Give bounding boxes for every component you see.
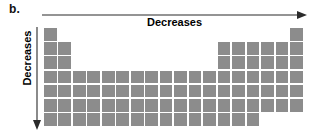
- periodic-table-cell: [218, 85, 231, 98]
- periodic-table-cell: [44, 56, 57, 69]
- periodic-table-cell-empty: [87, 56, 100, 69]
- periodic-table-cell-empty: [102, 42, 115, 55]
- periodic-table-row: [44, 71, 305, 85]
- periodic-table-cell: [247, 85, 260, 98]
- periodic-table-cell-empty: [174, 56, 187, 69]
- periodic-table-row: [44, 85, 305, 99]
- periodic-table-cell: [290, 42, 303, 55]
- periodic-table-cell: [174, 113, 187, 126]
- periodic-table-cell: [44, 99, 57, 112]
- periodic-table-cell: [87, 85, 100, 98]
- periodic-table-cell: [189, 99, 202, 112]
- periodic-table-cell: [160, 113, 173, 126]
- periodic-table-cell: [247, 56, 260, 69]
- periodic-table-cell-empty: [261, 28, 274, 41]
- periodic-table-cell: [73, 85, 86, 98]
- top-arrow-label: Decreases: [42, 16, 307, 28]
- periodic-table-cell: [290, 71, 303, 84]
- periodic-table-cell: [116, 113, 129, 126]
- periodic-table-cell: [116, 99, 129, 112]
- periodic-table-cell-empty: [189, 56, 202, 69]
- periodic-table-cell: [218, 56, 231, 69]
- periodic-table-cell-empty: [87, 28, 100, 41]
- periodic-table-cell: [145, 71, 158, 84]
- periodic-table-cell-empty: [87, 42, 100, 55]
- periodic-table-cell: [73, 99, 86, 112]
- left-arrow-label: Decreases: [21, 13, 33, 103]
- periodic-table-cell: [232, 42, 245, 55]
- periodic-table-cell: [290, 99, 303, 112]
- periodic-table-cell: [58, 56, 71, 69]
- periodic-table-cell: [203, 99, 216, 112]
- periodic-table-cell-empty: [174, 28, 187, 41]
- periodic-table-cell-empty: [203, 56, 216, 69]
- periodic-table-cell: [247, 71, 260, 84]
- periodic-table-cell: [247, 113, 260, 126]
- periodic-table-cell-empty: [102, 28, 115, 41]
- periodic-table-cell: [58, 71, 71, 84]
- periodic-table-row: [44, 56, 305, 70]
- periodic-table-cell: [247, 99, 260, 112]
- periodic-table-cell: [232, 99, 245, 112]
- periodic-table-cell-empty: [58, 28, 71, 41]
- periodic-table-cell: [203, 113, 216, 126]
- periodic-table-cell-empty: [102, 56, 115, 69]
- periodic-table-cell-empty: [145, 28, 158, 41]
- periodic-table-row: [44, 28, 305, 42]
- periodic-table-cell: [102, 71, 115, 84]
- periodic-table-cell: [290, 28, 303, 41]
- periodic-table-cell: [290, 85, 303, 98]
- periodic-table-cell: [102, 99, 115, 112]
- periodic-table-cell-empty: [261, 113, 274, 126]
- periodic-table-cell: [189, 113, 202, 126]
- periodic-table-cell: [102, 113, 115, 126]
- periodic-table-cell: [58, 42, 71, 55]
- periodic-table-cell: [218, 42, 231, 55]
- periodic-table-cell: [87, 113, 100, 126]
- periodic-table-cell-empty: [131, 42, 144, 55]
- periodic-table-grid: [44, 28, 305, 127]
- periodic-table-cell-empty: [174, 42, 187, 55]
- periodic-table-cell-empty: [131, 56, 144, 69]
- periodic-table-cell: [276, 99, 289, 112]
- periodic-table-cell: [189, 71, 202, 84]
- periodic-table-cell: [44, 71, 57, 84]
- periodic-table-cell-empty: [189, 42, 202, 55]
- periodic-table-cell: [131, 85, 144, 98]
- periodic-table-row: [44, 113, 305, 127]
- periodic-table-cell: [232, 56, 245, 69]
- periodic-table-cell: [116, 85, 129, 98]
- periodic-table-cell: [203, 85, 216, 98]
- periodic-table-cell: [145, 113, 158, 126]
- periodic-table-cell: [261, 56, 274, 69]
- periodic-table-cell: [203, 71, 216, 84]
- periodic-table-cell-empty: [160, 28, 173, 41]
- periodic-trend-figure: b. Decreases Decreases: [0, 0, 321, 135]
- periodic-table-cell-empty: [203, 42, 216, 55]
- periodic-table-cell: [131, 99, 144, 112]
- periodic-table-cell: [218, 113, 231, 126]
- periodic-table-cell-empty: [247, 28, 260, 41]
- periodic-table-cell: [261, 85, 274, 98]
- periodic-table-cell-empty: [189, 28, 202, 41]
- periodic-table-cell: [44, 113, 57, 126]
- periodic-table-cell: [73, 113, 86, 126]
- periodic-table-cell: [261, 71, 274, 84]
- periodic-table-cell-empty: [203, 28, 216, 41]
- periodic-table-cell: [218, 71, 231, 84]
- periodic-table-cell: [276, 42, 289, 55]
- periodic-table-cell-empty: [290, 113, 303, 126]
- periodic-table-cell: [174, 99, 187, 112]
- periodic-table-cell: [276, 85, 289, 98]
- periodic-table-cell: [276, 71, 289, 84]
- periodic-table-row: [44, 42, 305, 56]
- periodic-table-cell: [116, 71, 129, 84]
- periodic-table-cell-empty: [116, 42, 129, 55]
- periodic-table-cell: [290, 56, 303, 69]
- periodic-table-cell: [131, 71, 144, 84]
- periodic-table-cell-empty: [218, 28, 231, 41]
- periodic-table-cell-empty: [160, 56, 173, 69]
- periodic-table-cell: [58, 113, 71, 126]
- periodic-table-cell: [102, 85, 115, 98]
- periodic-table-cell: [247, 42, 260, 55]
